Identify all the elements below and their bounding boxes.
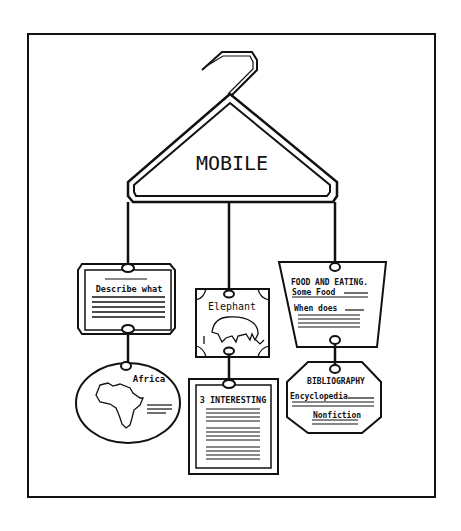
- food-line1: Some Food: [292, 288, 336, 297]
- describe-label: Describe what: [96, 284, 163, 294]
- card-describe: [78, 264, 175, 334]
- bibliography-line2: Nonfiction: [313, 410, 361, 420]
- interesting-label: 3 INTERESTING: [200, 395, 267, 405]
- elephant-icon: [212, 317, 258, 342]
- food-label: FOOD AND EATING.: [291, 278, 368, 287]
- bibliography-line1: Encyclopedia: [290, 391, 348, 401]
- africa-label: Africa: [133, 374, 166, 384]
- food-line2: When does: [294, 304, 338, 313]
- card-interesting: [189, 379, 278, 474]
- elephant-label: Elephant: [208, 301, 256, 312]
- bibliography-label: BIBLIOGRAPHY: [307, 377, 365, 386]
- hanger-hook-icon: [202, 52, 257, 96]
- hanger-triangle: [128, 94, 337, 202]
- card-elephant: [196, 289, 269, 357]
- title-label: MOBILE: [196, 151, 268, 175]
- africa-map-icon: [96, 383, 143, 428]
- mobile-diagram: MOBILE Describe what Africa: [0, 0, 461, 531]
